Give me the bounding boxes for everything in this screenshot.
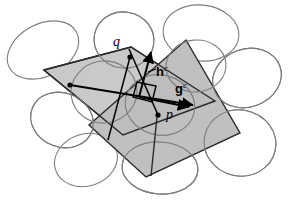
label-point-q: q (113, 35, 120, 49)
label-vector-g-base: g (175, 81, 183, 96)
label-vector-g: gc (175, 82, 187, 95)
anchor-dot-left (67, 82, 72, 87)
label-vector-h: hc (156, 65, 168, 78)
label-vector-h-superscript: c (164, 63, 168, 73)
label-vector-h-base: h (156, 64, 164, 79)
point-q-dot (127, 54, 132, 59)
label-vector-g-superscript: c (183, 80, 187, 90)
point-p-dot (155, 112, 160, 117)
figure-root: q p hc gc (0, 0, 291, 208)
label-point-p: p (166, 108, 173, 122)
diagram-canvas (0, 0, 291, 208)
